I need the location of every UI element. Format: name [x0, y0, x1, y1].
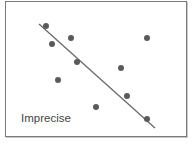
data-point: [49, 41, 55, 47]
data-point: [55, 77, 61, 83]
imprecise-label: Imprecise: [21, 112, 71, 124]
data-point: [68, 35, 74, 41]
data-point: [118, 65, 124, 71]
data-point: [43, 23, 49, 29]
data-point: [74, 59, 80, 65]
data-point: [93, 104, 99, 110]
data-point: [144, 116, 150, 122]
data-point: [124, 93, 130, 99]
data-point: [144, 35, 150, 41]
